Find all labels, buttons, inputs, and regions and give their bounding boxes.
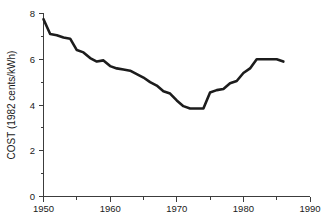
chart-figure: 8 6 4 2 0 1950 1960 1970 1980 1990 COST … — [0, 0, 330, 223]
x-tick-label-1980: 1980 — [233, 203, 254, 214]
y-tick-label-6: 6 — [30, 54, 35, 65]
y-tick-label-2: 2 — [30, 145, 35, 156]
x-tick-label-1950: 1950 — [33, 203, 54, 214]
x-axis-major-ticks — [44, 197, 311, 202]
x-axis-tick-labels: 1950 1960 1970 1980 1990 — [33, 203, 321, 214]
y-tick-label-8: 8 — [30, 8, 35, 19]
x-tick-label-1960: 1960 — [100, 203, 121, 214]
line-chart-svg: 8 6 4 2 0 1950 1960 1970 1980 1990 COST … — [0, 0, 330, 223]
y-axis-title: COST (1982 cents/kWh) — [6, 51, 17, 160]
x-tick-label-1990: 1990 — [299, 203, 320, 214]
y-tick-label-0: 0 — [30, 191, 35, 202]
x-tick-label-1970: 1970 — [166, 203, 187, 214]
y-axis-tick-labels: 8 6 4 2 0 — [30, 8, 35, 202]
y-tick-label-4: 4 — [30, 100, 35, 111]
y-axis-major-ticks — [39, 14, 44, 197]
data-series-line — [44, 19, 284, 108]
